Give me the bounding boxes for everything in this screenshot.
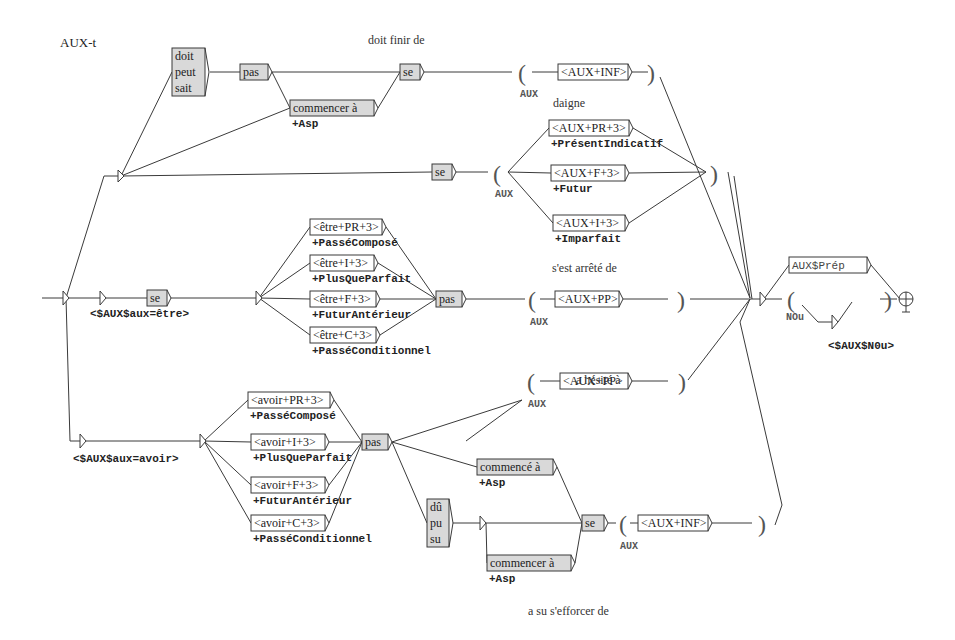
graph-box-auxinf2[interactable]: <AUX+INF> xyxy=(638,515,712,531)
variable-name: NOu xyxy=(786,312,804,323)
graph-box-se4[interactable]: se xyxy=(582,515,608,531)
boxes-layer: doitpeutsaitpascommencer à+Aspse<AUX+INF… xyxy=(147,48,871,585)
graph-box-etrei[interactable]: <être+I+3>+PlusQueParfait xyxy=(310,255,411,285)
box-line: se xyxy=(150,291,160,305)
variable-name: AUX xyxy=(620,541,638,552)
box-output: +Asp xyxy=(292,118,319,130)
graph-box-auxf[interactable]: <AUX+F+3>+Futur xyxy=(551,165,629,195)
close-paren-icon: ) xyxy=(758,511,766,537)
box-output: +PlusQueParfait xyxy=(253,452,352,464)
graph-box-etrec[interactable]: <être+C+3>+PasséConditionnel xyxy=(310,327,431,357)
box-output: +PasséConditionnel xyxy=(312,345,431,357)
box-line: AUX$Prép xyxy=(792,260,845,272)
box-output: +Futur xyxy=(553,183,593,195)
box-output: +PlusQueParfait xyxy=(312,273,411,285)
graph-box-auxpp1[interactable]: <AUX+PP> xyxy=(555,291,623,307)
graph-comment: doit finir de xyxy=(368,33,425,47)
graph-box-etref[interactable]: <être+F+3>+FuturAntérieur xyxy=(310,291,411,321)
graph-comment: a hésité à xyxy=(576,373,621,387)
node-arrow-icon xyxy=(760,292,766,306)
box-line: <AUX+F+3> xyxy=(554,166,620,180)
open-paren-icon: ( xyxy=(493,161,501,187)
grammar-graph-canvas: AUX-t xyxy=(0,0,955,640)
box-line: se xyxy=(403,65,413,79)
box-line: pas xyxy=(439,292,455,306)
graph-box-se1[interactable]: se xyxy=(400,64,424,80)
node-output-label: <$AUX$aux=être> xyxy=(90,308,189,320)
node-arrow-icon xyxy=(200,434,206,448)
graph-box-avoiri[interactable]: <avoir+I+3>+PlusQueParfait xyxy=(251,434,352,464)
box-line: <AUX+INF> xyxy=(561,65,627,79)
box-line: pas xyxy=(365,435,381,449)
node-output-label: <$AUX$N0u> xyxy=(828,340,894,352)
graph-box-commencer2[interactable]: commencer à+Asp xyxy=(487,555,575,585)
box-output: +PrésentIndicatif xyxy=(551,138,664,150)
box-line: commencer à xyxy=(293,101,358,115)
box-line: se xyxy=(435,165,445,179)
box-line: se xyxy=(585,516,595,530)
graph-box-pas1[interactable]: pas xyxy=(240,64,272,80)
box-line: <être+I+3> xyxy=(313,256,368,270)
box-output: +Imparfait xyxy=(555,233,621,245)
node-arrow-icon xyxy=(80,434,86,448)
open-paren-icon: ( xyxy=(787,287,795,313)
box-line: doit xyxy=(175,49,194,63)
graph-box-auxpr[interactable]: <AUX+PR+3>+PrésentIndicatif xyxy=(549,120,664,150)
box-output: +PasséComposé xyxy=(312,237,398,249)
open-paren-icon: ( xyxy=(528,287,536,313)
variable-name: AUX xyxy=(495,189,513,200)
box-line: <AUX+I+3> xyxy=(556,216,619,230)
graph-box-auxprep[interactable]: AUX$Prép xyxy=(789,257,871,273)
box-line: <avoir+F+3> xyxy=(254,478,319,492)
box-line: commencer à xyxy=(490,556,555,570)
box-line: sait xyxy=(175,81,192,95)
box-line: <avoir+I+3> xyxy=(254,435,316,449)
graph-comment: a su s'efforcer de xyxy=(528,604,609,618)
graph-box-commence[interactable]: commencé à+Asp xyxy=(477,459,557,489)
open-paren-icon: ( xyxy=(518,60,526,86)
open-paren-icon: ( xyxy=(619,511,627,537)
graph-box-commencer1[interactable]: commencer à+Asp xyxy=(290,100,378,130)
open-paren-icon: ( xyxy=(527,369,535,395)
graph-box-du[interactable]: dûpusu xyxy=(427,499,453,547)
graph-box-pas3[interactable]: pas xyxy=(362,434,392,450)
box-output: +PasséConditionnel xyxy=(253,533,372,545)
box-line: <AUX+INF> xyxy=(641,516,707,530)
graph-box-doit[interactable]: doitpeutsait xyxy=(172,48,209,96)
graph-box-pas2[interactable]: pas xyxy=(436,291,466,307)
variable-name: AUX xyxy=(528,399,546,410)
close-paren-icon: ) xyxy=(677,287,685,313)
graph-box-avoirc[interactable]: <avoir+C+3>+PasséConditionnel xyxy=(251,515,372,545)
box-line: <AUX+PP> xyxy=(558,292,618,306)
close-paren-icon: ) xyxy=(678,369,686,395)
box-line: <être+C+3> xyxy=(313,328,372,342)
box-line: dû xyxy=(430,500,442,514)
box-line: <être+F+3> xyxy=(313,292,371,306)
graph-comment: daigne xyxy=(553,96,585,110)
node-arrow-icon xyxy=(100,291,106,305)
box-line: commencé à xyxy=(480,460,541,474)
box-output: +Asp xyxy=(479,477,506,489)
node-arrow-icon xyxy=(480,516,486,530)
box-line: su xyxy=(430,532,441,546)
box-output: +PasséComposé xyxy=(250,410,336,422)
graph-box-etrepr[interactable]: <être+PR+3>+PasséComposé xyxy=(310,219,398,249)
box-line: <être+PR+3> xyxy=(313,220,379,234)
node-markers xyxy=(63,170,913,530)
graph-title: AUX-t xyxy=(60,35,96,50)
box-line: <avoir+C+3> xyxy=(254,516,320,530)
graph-box-auxi[interactable]: <AUX+I+3>+Imparfait xyxy=(553,215,629,245)
graph-box-avoirpr[interactable]: <avoir+PR+3>+PasséComposé xyxy=(248,392,336,422)
node-arrow-icon xyxy=(832,315,838,329)
box-output: +Asp xyxy=(489,573,516,585)
graph-box-avoirf[interactable]: <avoir+F+3>+FuturAntérieur xyxy=(251,477,352,507)
close-paren-icon: ) xyxy=(884,287,892,313)
variables-layer: AUXAUXAUXAUXNOuAUX xyxy=(495,89,804,552)
variable-name: AUX xyxy=(520,89,538,100)
box-line: <AUX+PR+3> xyxy=(552,121,626,135)
node-output-label: <$AUX$aux=avoir> xyxy=(73,453,179,465)
graph-box-se3[interactable]: se xyxy=(147,290,171,306)
graph-box-se2[interactable]: se xyxy=(432,164,456,180)
graph-box-auxinf1[interactable]: <AUX+INF> xyxy=(558,64,632,80)
close-paren-icon: ) xyxy=(710,161,718,187)
